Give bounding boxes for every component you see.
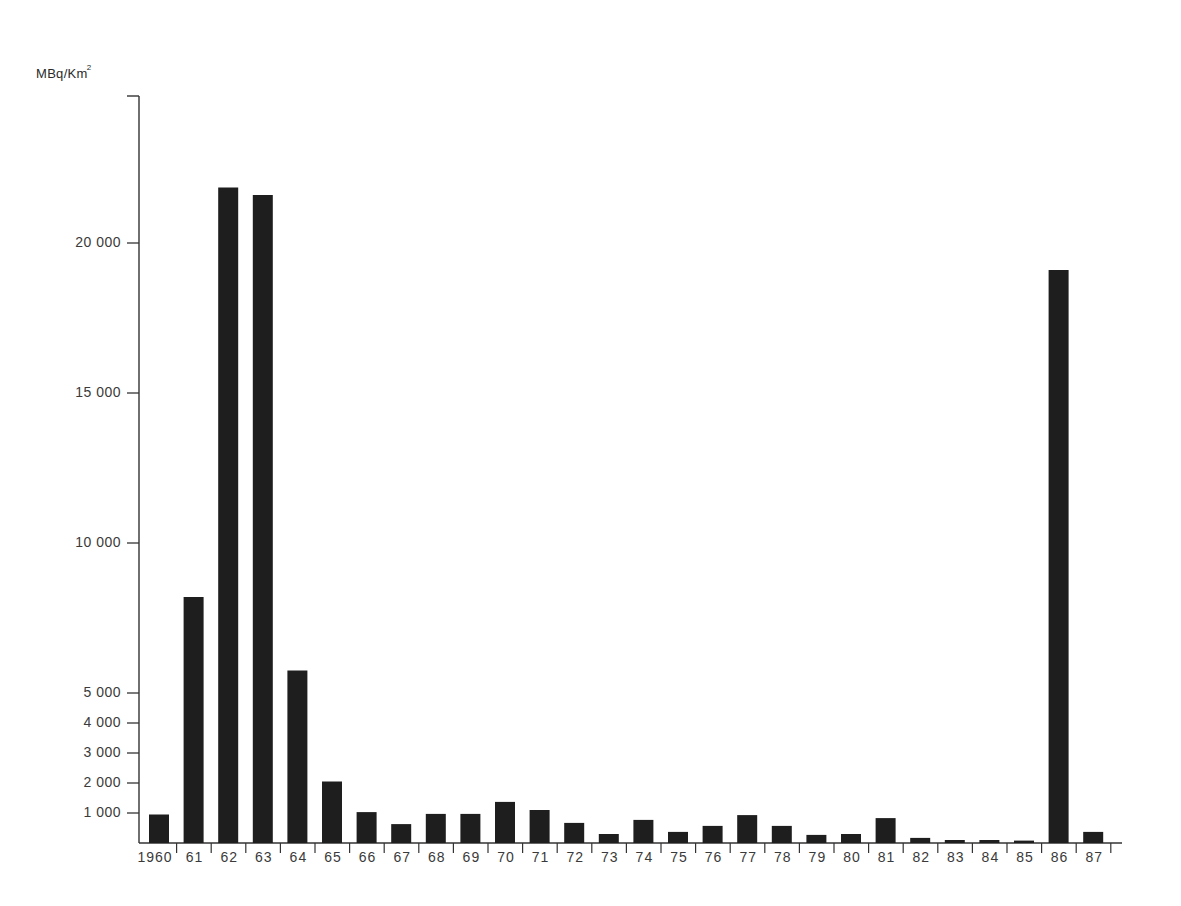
x-tick-label: 62: [214, 849, 244, 865]
y-tick-label: 5 000: [11, 684, 121, 700]
bar-84: [979, 840, 999, 843]
y-tick-label: 10 000: [11, 534, 121, 550]
bar-64: [287, 671, 307, 844]
bar-80: [841, 834, 861, 843]
x-tick-label: 79: [802, 849, 832, 865]
x-tick-label: 81: [872, 849, 902, 865]
x-tick-label: 64: [283, 849, 313, 865]
y-tick-label: 4 000: [11, 714, 121, 730]
bar-81: [876, 818, 896, 843]
plot-area: [0, 0, 1181, 906]
bar-85: [1014, 841, 1034, 843]
x-tick-label: 76: [699, 849, 729, 865]
x-tick-label: 77: [733, 849, 763, 865]
y-tick-label: 2 000: [11, 774, 121, 790]
x-tick-label: 67: [387, 849, 417, 865]
x-tick-label: 83: [941, 849, 971, 865]
bar-69: [460, 814, 480, 843]
x-tick-label: 87: [1079, 849, 1109, 865]
x-tick-label: 1960: [130, 849, 180, 865]
x-tick-label: 73: [595, 849, 625, 865]
y-tick-label: 20 000: [11, 234, 121, 250]
x-tick-label: 80: [837, 849, 867, 865]
bar-71: [530, 810, 550, 843]
x-tick-label: 74: [629, 849, 659, 865]
y-tick-label: 3 000: [11, 744, 121, 760]
y-tick-label: 1 000: [11, 804, 121, 820]
x-tick-label: 85: [1010, 849, 1040, 865]
bar-1960: [149, 815, 169, 844]
bar-65: [322, 782, 342, 844]
bar-82: [910, 838, 930, 843]
x-tick-label: 75: [664, 849, 694, 865]
x-tick-label: 86: [1045, 849, 1075, 865]
x-tick-label: 70: [491, 849, 521, 865]
x-tick-label: 68: [422, 849, 452, 865]
bar-78: [772, 826, 792, 843]
x-tick-label: 72: [560, 849, 590, 865]
x-tick-label: 63: [249, 849, 279, 865]
bar-73: [599, 834, 619, 843]
bar-66: [357, 812, 377, 843]
bar-87: [1083, 832, 1103, 843]
bar-86: [1049, 270, 1069, 843]
bar-79: [806, 835, 826, 843]
bar-63: [253, 195, 273, 843]
x-tick-label: 65: [318, 849, 348, 865]
bar-72: [564, 823, 584, 843]
bar-75: [668, 832, 688, 843]
bar-74: [633, 820, 653, 843]
bar-77: [737, 815, 757, 843]
x-tick-label: 71: [526, 849, 556, 865]
bar-83: [945, 840, 965, 843]
bar-61: [184, 597, 204, 843]
bar-76: [703, 826, 723, 843]
x-tick-label: 66: [353, 849, 383, 865]
bar-62: [218, 188, 238, 844]
bar-67: [391, 824, 411, 843]
bar-chart: MBq/Km2 1 0002 0003 0004 0005 00010 0001…: [0, 0, 1181, 906]
x-tick-label: 69: [456, 849, 486, 865]
x-tick-label: 82: [906, 849, 936, 865]
y-tick-label: 15 000: [11, 384, 121, 400]
x-tick-label: 78: [768, 849, 798, 865]
x-tick-label: 61: [180, 849, 210, 865]
bar-68: [426, 814, 446, 843]
x-tick-label: 84: [975, 849, 1005, 865]
bar-70: [495, 802, 515, 843]
